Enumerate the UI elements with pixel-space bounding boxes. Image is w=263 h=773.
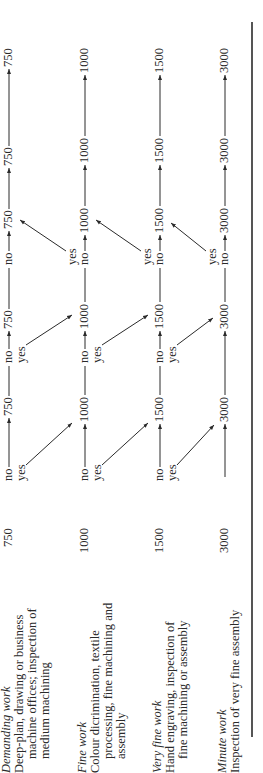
flow-arrows: [0, 0, 263, 773]
rotated-table-page: Demanding work Deep-plan, drawing or bus…: [0, 0, 263, 773]
